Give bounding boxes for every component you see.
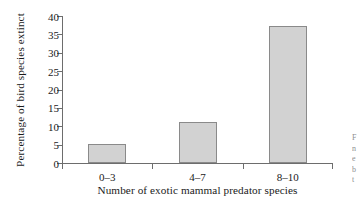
y-tick: 25	[62, 71, 67, 72]
y-tick: 15	[62, 108, 67, 109]
y-tick: 5	[62, 145, 67, 146]
y-tick: 40	[62, 16, 67, 17]
chart-figure: Percentage of bird species extinct 05101…	[0, 0, 362, 206]
plot-area: 0510152025303540 0–34–78–10	[62, 16, 333, 163]
y-tick-label: 10	[48, 121, 59, 132]
x-axis-line	[62, 163, 333, 164]
x-tick-mark	[62, 164, 63, 169]
x-category-label: 4–7	[189, 171, 206, 183]
bar	[88, 144, 126, 163]
y-tick-label: 25	[48, 66, 59, 77]
y-tick: 20	[62, 90, 67, 91]
x-tick-mark	[332, 164, 333, 169]
x-axis-title: Number of exotic mammal predator species	[62, 183, 333, 197]
y-tick-label: 5	[54, 140, 60, 151]
caption-fragment-line: F	[352, 133, 362, 144]
caption-fragment-line: b	[352, 165, 362, 176]
y-tick: 30	[62, 53, 67, 54]
caption-fragment: Fnebt	[352, 133, 362, 185]
caption-fragment-line: e	[352, 154, 362, 165]
x-category-label: 0–3	[99, 171, 116, 183]
y-tick-label: 0	[54, 158, 60, 169]
x-category-label: 8–10	[277, 171, 299, 183]
x-tick-mark	[243, 164, 244, 169]
y-tick-label: 15	[48, 103, 59, 114]
caption-fragment-line: n	[352, 144, 362, 155]
y-tick-label: 30	[48, 48, 59, 59]
y-tick-label: 35	[48, 29, 59, 40]
x-tick-mark	[152, 164, 153, 169]
bar	[179, 122, 217, 163]
y-tick-label: 20	[48, 85, 59, 96]
bar	[269, 26, 307, 163]
y-tick-label: 40	[48, 11, 59, 22]
caption-fragment-line: t	[352, 175, 362, 185]
y-axis-title: Percentage of bird species extinct	[11, 10, 29, 170]
y-tick: 35	[62, 34, 67, 35]
y-tick: 10	[62, 126, 67, 127]
